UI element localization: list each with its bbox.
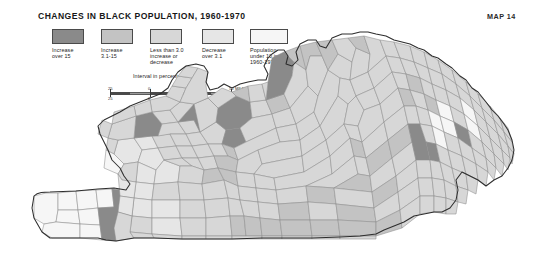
county-polygon — [134, 182, 154, 200]
county-polygon — [132, 198, 152, 218]
county-polygon — [308, 202, 338, 220]
county-layer — [34, 36, 514, 241]
county-polygon — [418, 178, 434, 196]
county-polygon — [420, 196, 434, 214]
county-polygon — [152, 200, 180, 218]
county-polygon — [152, 218, 182, 236]
county-polygon — [178, 166, 204, 184]
county-polygon — [258, 202, 280, 220]
county-polygon — [58, 191, 78, 210]
county-polygon — [56, 210, 80, 224]
county-polygon — [278, 202, 310, 220]
county-polygon — [34, 193, 58, 224]
county-polygon — [230, 216, 246, 236]
county-polygon — [236, 172, 256, 188]
county-polygon — [178, 182, 204, 200]
county-polygon — [42, 222, 80, 238]
county-polygon — [130, 216, 152, 234]
county-polygon — [260, 218, 282, 236]
map-page: CHANGES IN BLACK POPULATION, 1960-1970 M… — [0, 0, 549, 255]
county-polygon — [306, 186, 336, 204]
county-polygon — [180, 200, 206, 218]
county-polygon — [204, 198, 230, 218]
county-polygon — [310, 220, 340, 236]
county-polygon — [416, 160, 432, 178]
county-polygon — [76, 190, 98, 210]
county-polygon — [256, 188, 278, 204]
kentucky-county-map — [0, 0, 549, 255]
county-polygon — [96, 189, 114, 208]
county-polygon — [280, 220, 312, 236]
county-polygon — [338, 220, 376, 236]
map-svg — [0, 0, 549, 255]
county-polygon — [206, 216, 232, 236]
county-polygon — [152, 182, 180, 200]
county-polygon — [180, 218, 206, 236]
county-polygon — [238, 186, 258, 202]
county-polygon — [78, 208, 100, 225]
county-polygon — [244, 216, 262, 236]
